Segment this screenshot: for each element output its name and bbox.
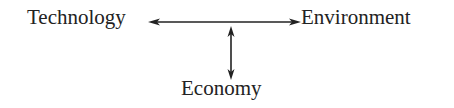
vertical-bidirectional-arrow — [228, 26, 235, 80]
arrows — [0, 0, 454, 108]
horizontal-bidirectional-arrow — [148, 19, 301, 26]
